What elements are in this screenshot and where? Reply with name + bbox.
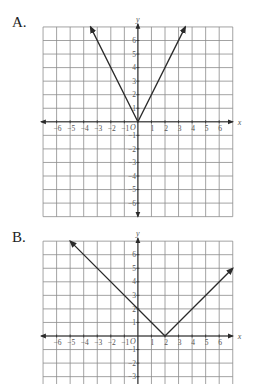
x-tick-label: 2: [164, 338, 168, 347]
graph-option-b: xyO−6−5−4−3−2−1123456−3−2−1123456: [0, 0, 256, 384]
y-tick-label: −3: [128, 372, 136, 381]
y-tick-label: −2: [128, 359, 136, 368]
x-tick-label: 4: [191, 338, 195, 347]
x-tick-label: 5: [205, 338, 209, 347]
x-tick-label: −3: [94, 338, 102, 347]
x-tick-label: −4: [81, 338, 89, 347]
x-axis-label: x: [237, 332, 242, 341]
y-axis-label: y: [135, 229, 140, 238]
x-tick-label: 1: [151, 338, 155, 347]
x-tick-label: 6: [218, 338, 222, 347]
y-tick-label: −1: [128, 345, 136, 354]
y-tick-label: 6: [132, 250, 136, 259]
x-tick-label: −5: [67, 338, 75, 347]
x-tick-label: −2: [108, 338, 116, 347]
x-tick-label: 3: [178, 338, 182, 347]
x-tick-label: −6: [54, 338, 62, 347]
y-tick-label: 5: [132, 264, 136, 273]
y-tick-label: 4: [132, 277, 136, 286]
y-tick-label: 3: [132, 291, 136, 300]
y-tick-label: 1: [132, 318, 136, 327]
